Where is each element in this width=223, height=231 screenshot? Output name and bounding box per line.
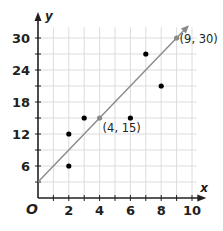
point-annotation: (4, 15)	[103, 121, 141, 135]
point-annotations: (4, 15)(9, 30)	[103, 32, 218, 135]
y-tick-label: 12	[12, 127, 30, 142]
x-tick-label: 8	[157, 203, 166, 218]
data-point	[97, 115, 102, 120]
scatter-chart: 246810612182430 (4, 15)(9, 30) x y O	[0, 0, 223, 231]
trend-line-path	[38, 28, 186, 182]
origin-label: O	[26, 201, 38, 217]
data-point	[66, 163, 71, 168]
y-axis-label: y	[45, 9, 54, 23]
y-tick-label: 18	[12, 95, 30, 110]
x-tick-label: 4	[95, 203, 104, 218]
y-tick-label: 24	[12, 63, 30, 78]
point-annotation: (9, 30)	[180, 32, 218, 46]
data-point	[174, 35, 179, 40]
y-tick-label: 6	[21, 159, 30, 174]
data-point	[82, 115, 87, 120]
grid-lines	[38, 27, 197, 198]
y-tick-label: 30	[12, 31, 30, 46]
trend-line	[38, 25, 189, 182]
data-point	[159, 83, 164, 88]
y-axis-arrow-icon	[35, 12, 42, 21]
x-axis-arrow-icon	[197, 195, 206, 202]
data-point	[66, 131, 71, 136]
x-tick-label: 6	[126, 203, 135, 218]
x-axis-label: x	[199, 181, 209, 195]
x-tick-label: 10	[183, 203, 201, 218]
data-point	[143, 51, 148, 56]
data-point	[128, 115, 133, 120]
x-tick-label: 2	[64, 203, 73, 218]
